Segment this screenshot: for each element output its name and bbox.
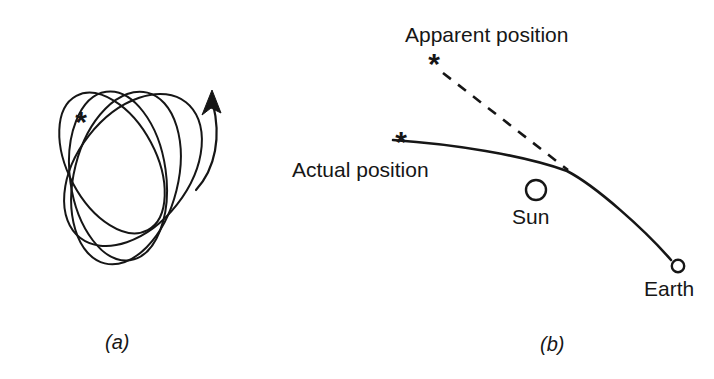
earth-circle [672,260,684,272]
orbit-ellipse-4 [36,68,230,272]
panel-b-caption: (b) [540,333,564,355]
panel-a-star-icon: * [75,105,87,138]
panel-a-caption: (a) [105,331,129,353]
precession-arrow-shaft [196,104,217,190]
sun-label: Sun [512,205,549,228]
sun-circle [526,180,546,200]
actual-position-star-icon: * [395,125,407,158]
earth-label: Earth [644,277,694,300]
relativity-figure-svg: * (a) * * Apparent position Actual posit… [0,0,714,379]
apparent-position-star-icon: * [428,47,440,80]
orbit-ellipse-set [36,68,230,276]
figure-root: * (a) * * Apparent position Actual posit… [0,0,714,379]
panel-a-group: * (a) [36,68,230,353]
actual-position-label: Actual position [292,158,429,181]
panel-b-group: * * Apparent position Actual position Su… [292,23,694,355]
precession-direction-arrow [196,90,221,190]
apparent-position-label: Apparent position [405,23,568,46]
precession-arrow-head [202,90,221,115]
